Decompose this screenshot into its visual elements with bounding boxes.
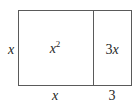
bottom-left-width-label: x bbox=[52, 89, 58, 103]
square-area-label: x2 bbox=[50, 42, 61, 56]
left-side-label: x bbox=[8, 43, 14, 57]
region-divider-line bbox=[93, 10, 94, 86]
strip-area-label: 3x bbox=[105, 43, 118, 57]
strip-area-variable: x bbox=[112, 42, 118, 57]
strip-area-coefficient: 3 bbox=[105, 42, 112, 57]
bottom-right-width-label: 3 bbox=[109, 89, 116, 103]
square-area-exponent: 2 bbox=[56, 39, 61, 49]
